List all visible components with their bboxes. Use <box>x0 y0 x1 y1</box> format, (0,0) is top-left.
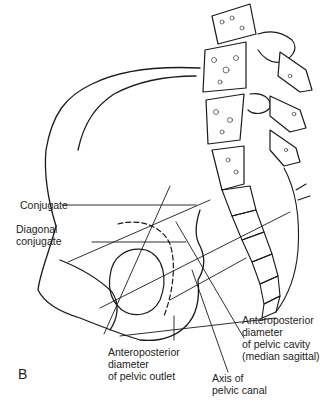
obturator-foramen <box>110 249 164 314</box>
label-ap-pelvic-cavity: Anteroposterior diameter of pelvic cavit… <box>242 314 320 362</box>
lumbar-vertebrae <box>203 4 312 190</box>
label-axis-pelvic-canal: Axis of pelvic canal <box>212 372 267 396</box>
label-conjugate: Conjugate <box>20 199 68 211</box>
label-diagonal-conjugate: Diagonal conjugate <box>16 223 62 247</box>
panel-letter: B <box>18 366 27 382</box>
sacrum <box>222 168 310 318</box>
label-ap-pelvic-outlet: Anteroposterior diameter of pelvic outle… <box>108 346 180 382</box>
